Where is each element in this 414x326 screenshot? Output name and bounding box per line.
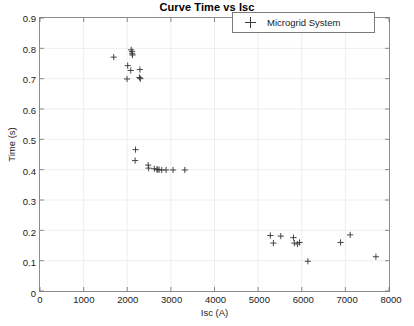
data-point-marker	[278, 233, 284, 239]
data-point-marker	[132, 157, 138, 163]
y-tick-label: 0.7	[23, 74, 36, 85]
plot-area: 01000200030004000500060007000800000.10.2…	[39, 17, 390, 292]
x-tick-label: 4000	[205, 294, 226, 305]
data-point-marker	[137, 66, 143, 72]
y-tick-label: 0.5	[23, 135, 36, 146]
y-axis-title: Time (s)	[6, 110, 17, 180]
y-tick-label: 0.2	[23, 226, 36, 237]
data-point-marker	[128, 67, 134, 73]
data-point-marker	[111, 54, 117, 60]
x-tick-label: 7000	[337, 294, 358, 305]
x-tick-label: 3000	[161, 294, 182, 305]
legend: Microgrid System	[232, 12, 375, 33]
x-axis-title: Isc (A)	[39, 307, 390, 318]
data-point-marker	[170, 167, 176, 173]
data-point-marker	[146, 165, 152, 171]
x-tick-label: 2000	[117, 294, 138, 305]
data-point-marker	[347, 232, 353, 238]
x-tick-label: 8000	[380, 294, 401, 305]
y-tick-label: 0.4	[23, 165, 36, 176]
data-point-marker	[337, 239, 343, 245]
y-tick-label: 0.6	[23, 104, 36, 115]
y-tick-label: 0.8	[23, 43, 36, 54]
data-point-marker	[373, 254, 379, 260]
x-tick-label: 1000	[73, 294, 94, 305]
data-point-marker	[290, 235, 296, 241]
legend-label-microgrid-system: Microgrid System	[267, 17, 340, 28]
y-tick-label: 0.1	[23, 257, 36, 268]
y-tick-label: 0	[31, 288, 36, 299]
y-tick-label: 0.3	[23, 196, 36, 207]
legend-plus-marker-icon	[233, 13, 267, 32]
data-points-layer	[40, 18, 389, 291]
data-point-marker	[182, 167, 188, 173]
data-point-marker	[291, 240, 297, 246]
data-point-marker	[132, 147, 138, 153]
data-point-marker	[137, 76, 143, 82]
data-point-marker	[267, 232, 273, 238]
x-tick-label: 6000	[293, 294, 314, 305]
y-tick-label: 0.9	[23, 13, 36, 24]
data-point-marker	[125, 63, 131, 69]
figure-container: Curve Time vs Isc 0100020003000400050006…	[0, 0, 414, 326]
x-tick-label: 5000	[249, 294, 270, 305]
data-point-marker	[163, 167, 169, 173]
data-point-marker	[124, 76, 130, 82]
data-point-marker	[136, 74, 142, 80]
x-tick-label: 0	[37, 294, 42, 305]
data-point-marker	[129, 52, 135, 58]
data-point-marker	[270, 240, 276, 246]
data-point-marker	[305, 258, 311, 264]
